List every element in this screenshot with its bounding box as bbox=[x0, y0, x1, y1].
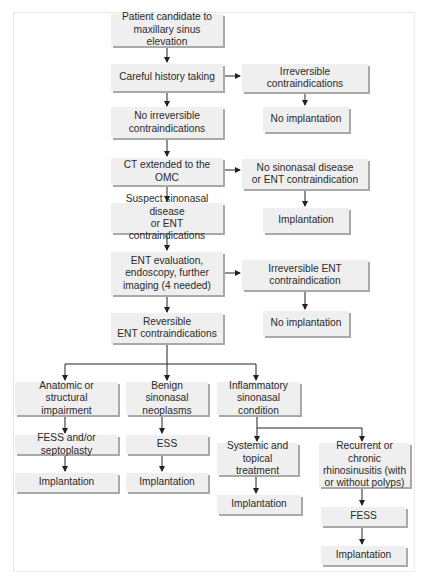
node-label: Anatomic or structural impairment bbox=[18, 380, 115, 417]
node-inflammatory: Inflammatory sinonasal condition bbox=[217, 382, 300, 415]
node-label: Irreversible contraindications bbox=[245, 66, 365, 91]
node-label: Implantation bbox=[336, 549, 392, 561]
node-label: Implantation bbox=[139, 476, 195, 488]
node-recurrent: Recurrent or chronic rhinosinusitis (wit… bbox=[319, 443, 410, 487]
node-label: FESS and/or septoplasty bbox=[18, 432, 115, 457]
node-label: Reversible ENT contraindications bbox=[117, 316, 216, 341]
node-irreversible: Irreversible contraindications bbox=[242, 64, 368, 92]
node-label: ESS bbox=[157, 438, 177, 450]
node-label: Irreversible ENT contraindication bbox=[268, 263, 342, 288]
node-label: Implantation bbox=[278, 214, 334, 226]
node-label: CT extended to the OMC bbox=[114, 159, 220, 184]
node-ent-eval: ENT evaluation, endoscopy, further imagi… bbox=[111, 252, 223, 295]
node-label: No implantation bbox=[271, 113, 342, 125]
node-history: Careful history taking bbox=[111, 64, 223, 91]
node-label: Inflammatory sinonasal condition bbox=[220, 380, 297, 417]
node-anatomic: Anatomic or structural impairment bbox=[15, 382, 118, 415]
node-fess-septoplasty: FESS and/or septoplasty bbox=[15, 435, 118, 454]
node-implantation-benign: Implantation bbox=[126, 473, 208, 492]
node-label: No irreversible contraindications bbox=[129, 110, 205, 135]
node-label: Patient candidate to maxillary sinus ele… bbox=[114, 11, 220, 48]
node-benign: Benign sinonasal neoplasms bbox=[126, 382, 208, 415]
node-suspect: Suspect sinonasal disease or ENT contrai… bbox=[111, 203, 223, 233]
node-label: ENT evaluation, endoscopy, further imagi… bbox=[123, 255, 211, 292]
node-label: No implantation bbox=[271, 317, 342, 329]
node-label: Careful history taking bbox=[119, 71, 215, 83]
node-no-sinonasal: No sinonasal disease or ENT contraindica… bbox=[242, 159, 368, 189]
node-reversible-ent: Reversible ENT contraindications bbox=[111, 313, 223, 343]
node-implantation-anatomic: Implantation bbox=[15, 473, 118, 492]
node-ess: ESS bbox=[126, 435, 208, 454]
node-label: Suspect sinonasal disease or ENT contrai… bbox=[114, 193, 220, 243]
node-no-implantation-2: No implantation bbox=[263, 311, 349, 336]
node-implantation-1: Implantation bbox=[263, 208, 349, 233]
node-label: No sinonasal disease or ENT contraindica… bbox=[252, 162, 358, 187]
node-systemic: Systemic and topical treatment bbox=[217, 443, 298, 475]
node-irreversible-ent: Irreversible ENT contraindication bbox=[242, 260, 368, 290]
node-label: Implantation bbox=[39, 476, 95, 488]
node-ct: CT extended to the OMC bbox=[111, 158, 223, 185]
node-implantation-systemic: Implantation bbox=[217, 495, 301, 514]
node-no-irreversible: No irreversible contraindications bbox=[111, 107, 223, 138]
node-no-implantation-1: No implantation bbox=[263, 107, 349, 132]
node-fess: FESS bbox=[321, 507, 406, 526]
node-label: Systemic and topical treatment bbox=[220, 440, 295, 477]
node-label: Benign sinonasal neoplasms bbox=[129, 380, 205, 417]
node-label: FESS bbox=[350, 510, 377, 522]
node-label: Implantation bbox=[231, 498, 287, 510]
node-implantation-recurrent: Implantation bbox=[321, 546, 406, 565]
node-label: Recurrent or chronic rhinosinusitis (wit… bbox=[322, 440, 407, 490]
node-start: Patient candidate to maxillary sinus ele… bbox=[111, 14, 223, 46]
